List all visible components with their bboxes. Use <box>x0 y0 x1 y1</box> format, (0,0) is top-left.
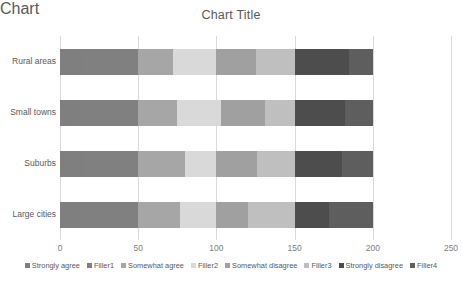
plot-area <box>60 36 373 240</box>
x-axis-ticks: 050100150200250 <box>60 243 451 255</box>
legend-label: Strongly agree <box>32 262 80 269</box>
bar-segment[interactable] <box>185 151 216 177</box>
bar-segment[interactable] <box>257 151 295 177</box>
chart-container: Chart Title Rural areasSmall townsSuburb… <box>0 0 462 282</box>
y-axis-labels: Rural areasSmall townsSuburbsLarge citie… <box>0 36 56 240</box>
legend-label: Strongly disagree <box>346 262 404 269</box>
legend-item[interactable]: Filler4 <box>410 262 437 269</box>
legend-item[interactable]: Strongly disagree <box>339 262 404 269</box>
bar-segment[interactable] <box>138 202 180 228</box>
bar-segment[interactable] <box>82 49 138 75</box>
bar-segment[interactable] <box>79 100 138 126</box>
bar-segment[interactable] <box>295 49 350 75</box>
legend-label: Filler4 <box>417 262 437 269</box>
bar-segment[interactable] <box>295 151 342 177</box>
legend-swatch-icon <box>121 263 126 268</box>
legend-swatch-icon <box>339 263 344 268</box>
gridline-250 <box>451 36 452 240</box>
bar-segment[interactable] <box>221 100 265 126</box>
bar-row <box>60 100 373 126</box>
bar-segment[interactable] <box>85 151 138 177</box>
legend-item[interactable]: Filler3 <box>304 262 331 269</box>
bar-segment[interactable] <box>177 100 221 126</box>
legend-label: Filler2 <box>198 262 218 269</box>
bar-segment[interactable] <box>216 49 255 75</box>
legend-item[interactable]: Somewhat disagree <box>225 262 297 269</box>
bar-segment[interactable] <box>345 100 373 126</box>
x-tick-label: 100 <box>209 243 223 253</box>
legend-swatch-icon <box>410 263 415 268</box>
legend-label: Filler1 <box>94 262 114 269</box>
x-tick-label: 150 <box>288 243 302 253</box>
stacked-bar[interactable] <box>60 100 373 126</box>
y-axis-label: Small towns <box>0 107 56 117</box>
bar-segment[interactable] <box>138 100 177 126</box>
legend-swatch-icon <box>304 263 309 268</box>
legend-item[interactable]: Filler1 <box>87 262 114 269</box>
legend-item[interactable]: Strongly agree <box>25 262 80 269</box>
bar-row <box>60 151 373 177</box>
bar-segment[interactable] <box>342 151 373 177</box>
x-tick-label: 0 <box>58 243 63 253</box>
bar-segment[interactable] <box>173 49 217 75</box>
bar-segment[interactable] <box>295 202 329 228</box>
bar-segment[interactable] <box>138 49 172 75</box>
bar-segment[interactable] <box>349 49 372 75</box>
legend-label: Filler3 <box>311 262 331 269</box>
y-axis-label: Large cities <box>0 209 56 219</box>
chart-legend: Strongly agreeFiller1Somewhat agreeFille… <box>0 262 462 269</box>
bar-segment[interactable] <box>216 151 257 177</box>
bar-segment[interactable] <box>265 100 295 126</box>
chart-title: Chart Title <box>0 8 462 22</box>
bar-segment[interactable] <box>256 49 295 75</box>
legend-swatch-icon <box>25 263 30 268</box>
legend-label: Somewhat disagree <box>232 262 297 269</box>
legend-swatch-icon <box>87 263 92 268</box>
x-tick-label: 200 <box>366 243 380 253</box>
x-tick-label: 50 <box>133 243 142 253</box>
bar-segment[interactable] <box>216 202 247 228</box>
legend-label: Somewhat agree <box>128 262 184 269</box>
bar-segment[interactable] <box>60 202 80 228</box>
legend-item[interactable]: Somewhat agree <box>121 262 184 269</box>
bar-rows <box>60 36 373 240</box>
bar-segment[interactable] <box>60 49 82 75</box>
bar-segment[interactable] <box>248 202 295 228</box>
stacked-bar[interactable] <box>60 202 373 228</box>
bar-segment[interactable] <box>60 151 85 177</box>
bar-segment[interactable] <box>295 100 345 126</box>
stacked-bar[interactable] <box>60 49 373 75</box>
stacked-bar[interactable] <box>60 151 373 177</box>
bar-segment[interactable] <box>80 202 138 228</box>
bar-segment[interactable] <box>180 202 216 228</box>
y-axis-label: Suburbs <box>0 158 56 168</box>
legend-item[interactable]: Filler2 <box>191 262 218 269</box>
bar-row <box>60 49 373 75</box>
x-tick-label: 250 <box>444 243 458 253</box>
legend-swatch-icon <box>225 263 230 268</box>
bar-segment[interactable] <box>60 100 79 126</box>
legend-swatch-icon <box>191 263 196 268</box>
bar-row <box>60 202 373 228</box>
bar-segment[interactable] <box>138 151 185 177</box>
y-axis-label: Rural areas <box>0 56 56 66</box>
bar-segment[interactable] <box>329 202 373 228</box>
